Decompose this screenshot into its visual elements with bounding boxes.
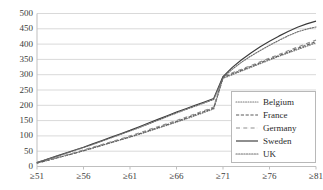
chart-legend: BelgiumFranceGermanySwedenUK bbox=[231, 91, 316, 163]
legend-swatch-france bbox=[235, 110, 259, 120]
legend-swatch-sweden bbox=[235, 136, 259, 146]
line-chart: 050100150200250300350400450500 ≥51≥56≥61… bbox=[0, 0, 323, 190]
legend-item-belgium[interactable]: Belgium bbox=[232, 95, 315, 108]
legend-item-france[interactable]: France bbox=[232, 108, 315, 121]
legend-swatch-germany bbox=[235, 123, 259, 133]
legend-item-germany[interactable]: Germany bbox=[232, 121, 315, 134]
legend-label: Belgium bbox=[263, 97, 294, 107]
legend-label: Germany bbox=[263, 123, 297, 133]
legend-swatch-belgium bbox=[235, 97, 259, 107]
legend-label: France bbox=[263, 110, 288, 120]
legend-label: Sweden bbox=[263, 136, 292, 146]
legend-item-sweden[interactable]: Sweden bbox=[232, 134, 315, 147]
legend-item-uk[interactable]: UK bbox=[232, 147, 315, 160]
legend-label: UK bbox=[263, 149, 276, 159]
legend-swatch-uk bbox=[235, 149, 259, 159]
